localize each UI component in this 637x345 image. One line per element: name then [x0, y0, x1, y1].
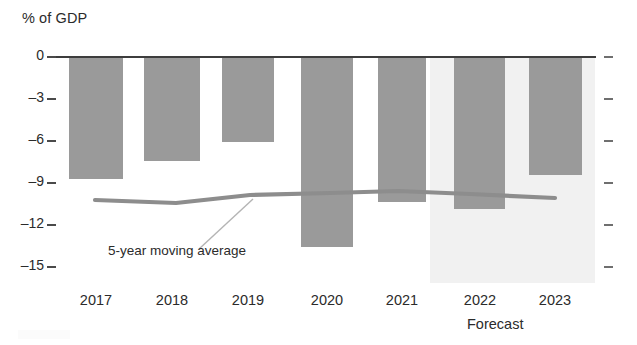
- x-tick-label-2023: 2023: [515, 292, 595, 308]
- y-tick-dash-9: [47, 182, 56, 184]
- moving-average-label: 5-year moving average: [108, 243, 246, 258]
- plot-area: 0 –3 –6 –9 –12 –15 5-year moving average…: [0, 0, 637, 345]
- y-tick-dash-3: [47, 98, 56, 100]
- y-tick-dash-right-6: [604, 140, 613, 142]
- x-tick-label-2018: 2018: [132, 292, 212, 308]
- chart-container: % of GDP 0 –3: [0, 0, 637, 345]
- y-tick-dash-12: [47, 224, 56, 226]
- callout-leader-line: [199, 199, 253, 249]
- x-tick-label-2020: 2020: [287, 292, 367, 308]
- y-tick-dash-right-0: [604, 56, 613, 58]
- y-tick-label-3: –3: [0, 89, 44, 105]
- y-tick-label-12: –12: [0, 215, 44, 231]
- scan-artifact: [18, 330, 70, 339]
- y-tick-label-15: –15: [0, 257, 44, 273]
- x-tick-label-2022: 2022: [440, 292, 520, 308]
- y-tick-label-9: –9: [0, 173, 44, 189]
- y-tick-dash-right-9: [604, 182, 613, 184]
- y-tick-dash-right-3: [604, 98, 613, 100]
- y-tick-dash-6: [47, 140, 56, 142]
- y-tick-dash-15: [47, 266, 56, 268]
- moving-average-line: [95, 191, 555, 203]
- x-tick-label-2019: 2019: [208, 292, 288, 308]
- forecast-label: Forecast: [467, 316, 523, 332]
- y-tick-dash-right-12: [604, 224, 613, 226]
- y-tick-label-0: 0: [0, 47, 44, 63]
- x-tick-label-2017: 2017: [56, 292, 136, 308]
- y-tick-label-6: –6: [0, 131, 44, 147]
- y-tick-dash-right-15: [604, 266, 613, 268]
- x-tick-label-2021: 2021: [362, 292, 442, 308]
- y-tick-dash-0: [47, 56, 56, 58]
